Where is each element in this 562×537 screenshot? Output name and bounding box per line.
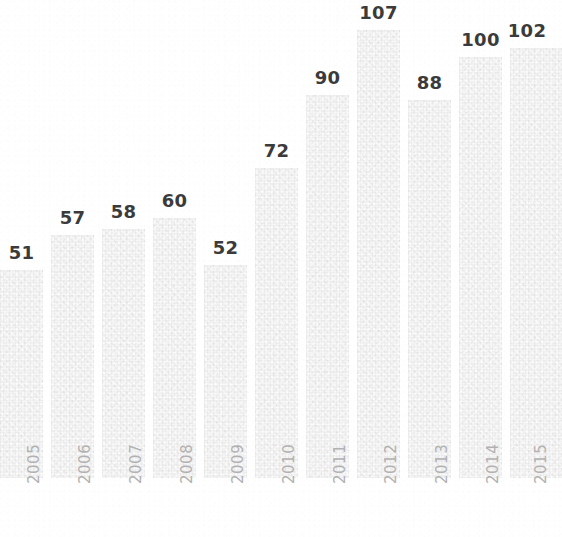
bar-value-label: 52	[198, 239, 253, 257]
bar[interactable]	[357, 30, 400, 478]
bar-column[interactable]: 52 2009	[204, 0, 247, 537]
bar[interactable]	[153, 218, 196, 478]
bar-chart: 51 2005 57 2006 58 2007 60 2008 52 2009	[0, 0, 562, 537]
x-axis-tick-label: 2005	[27, 444, 42, 484]
x-axis-tick-label: 2007	[129, 444, 144, 484]
bar[interactable]	[102, 229, 145, 478]
bar-column[interactable]: 60 2008	[153, 0, 196, 537]
plot-area: 51 2005 57 2006 58 2007 60 2008 52 2009	[0, 0, 562, 537]
x-axis-tick-label: 2006	[78, 444, 93, 484]
bar-column[interactable]: 88 2013	[408, 0, 451, 537]
x-axis-tick-label: 2009	[231, 444, 246, 484]
bar-column[interactable]: 57 2006	[51, 0, 94, 537]
bar[interactable]	[459, 57, 502, 478]
bar[interactable]	[306, 95, 349, 478]
bar-column[interactable]: 90 2011	[306, 0, 349, 537]
bar-column[interactable]: 51 2005	[0, 0, 43, 537]
bar[interactable]	[510, 48, 562, 478]
x-axis-tick-label: 2012	[384, 444, 399, 484]
bar-column[interactable]: 100 2014	[459, 0, 502, 537]
bar[interactable]	[408, 100, 451, 478]
bar-column[interactable]: 58 2007	[102, 0, 145, 537]
bar-value-label: 51	[0, 244, 49, 262]
bar-value-label: 88	[402, 74, 457, 92]
x-axis-tick-label: 2015	[534, 444, 549, 484]
bar-column[interactable]: 72 2010	[255, 0, 298, 537]
bar-column[interactable]: 107 2012	[357, 0, 400, 537]
bar-value-label: 72	[249, 142, 304, 160]
bar-value-label: 60	[147, 192, 202, 210]
bar-value-label: 102	[502, 22, 552, 40]
x-axis-tick-label: 2010	[282, 444, 297, 484]
bar-value-label: 90	[300, 69, 355, 87]
bar-value-label: 100	[453, 31, 508, 49]
bar[interactable]	[255, 168, 298, 478]
bar-value-label: 57	[45, 209, 100, 227]
bar[interactable]	[51, 235, 94, 478]
x-axis-tick-label: 2008	[180, 444, 195, 484]
bar-value-label: 107	[351, 4, 406, 22]
x-axis-tick-label: 2014	[486, 444, 501, 484]
bar-value-label: 58	[96, 203, 151, 221]
x-axis-tick-label: 2011	[333, 444, 348, 484]
bar-column[interactable]: 102 2015	[510, 0, 562, 537]
x-axis-tick-label: 2013	[435, 444, 450, 484]
